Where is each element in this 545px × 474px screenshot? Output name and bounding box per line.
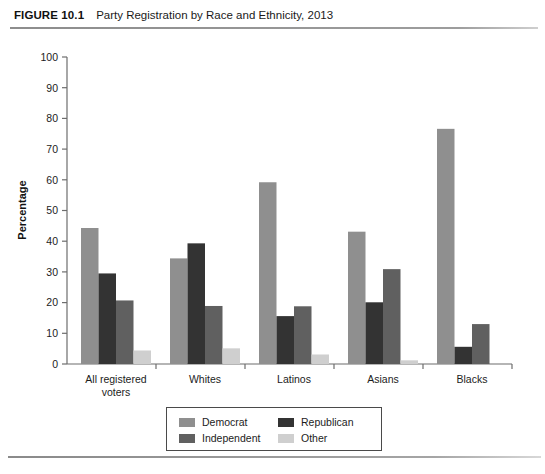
x-axis-ticks: [156, 364, 512, 369]
figure-title: Party Registration by Race and Ethnicity…: [96, 9, 333, 21]
bar-chart: 0102030405060708090100 All registeredvot…: [0, 30, 545, 454]
bar-republican-1: [188, 243, 206, 364]
bar-independent-3: [383, 269, 401, 364]
legend-label-republican: Republican: [301, 416, 354, 428]
legend-item-republican: Republican: [278, 416, 371, 428]
bar-republican-2: [277, 316, 295, 364]
legend-label-other: Other: [301, 432, 327, 444]
bar-independent-2: [294, 306, 312, 364]
x-category-label: Whites: [189, 373, 221, 385]
legend-label-democrat: Democrat: [202, 416, 248, 428]
y-axis-title: Percentage: [16, 180, 28, 239]
legend-swatch-other: [278, 434, 294, 443]
bar-independent-0: [116, 300, 134, 364]
x-category-label: Asians: [367, 373, 399, 385]
bar-republican-3: [366, 302, 384, 364]
x-category-label: Blacks: [457, 373, 488, 385]
figure-header: FIGURE 10.1 Party Registration by Race a…: [0, 0, 545, 30]
x-axis-category-labels: All registeredvotersWhitesLatinosAsiansB…: [85, 373, 487, 398]
bar-democrat-4: [437, 129, 455, 364]
bar-other-0: [134, 350, 152, 364]
bar-republican-0: [99, 273, 117, 364]
legend-item-democrat: Democrat: [179, 416, 272, 428]
x-category-label: Latinos: [277, 373, 311, 385]
y-tick-label: 90: [46, 82, 58, 94]
bar-independent-4: [472, 324, 490, 364]
bar-other-2: [312, 354, 330, 364]
y-tick-label: 50: [46, 204, 58, 216]
y-axis-tick-labels: 0102030405060708090100: [40, 51, 58, 370]
header-divider: [10, 27, 538, 29]
y-tick-label: 20: [46, 296, 58, 308]
legend-swatch-independent: [179, 434, 195, 443]
bar-series-group: [81, 129, 490, 364]
y-tick-label: 30: [46, 266, 58, 278]
legend-item-other: Other: [278, 432, 371, 444]
y-tick-label: 10: [46, 327, 58, 339]
bar-independent-1: [205, 306, 223, 364]
chart-container: 0102030405060708090100 All registeredvot…: [0, 30, 545, 454]
x-category-label: voters: [102, 386, 131, 398]
figure-number: FIGURE 10.1: [14, 9, 84, 21]
y-tick-label: 70: [46, 143, 58, 155]
legend-swatch-republican: [278, 418, 294, 427]
y-tick-label: 40: [46, 235, 58, 247]
y-tick-label: 100: [40, 51, 58, 63]
x-category-label: All registered: [85, 373, 146, 385]
y-tick-label: 0: [52, 358, 58, 370]
bar-republican-4: [455, 347, 473, 364]
bar-democrat-1: [170, 258, 188, 364]
bar-democrat-3: [348, 232, 366, 364]
legend-swatch-democrat: [179, 418, 195, 427]
chart-legend: Democrat Republican Independent Other: [166, 407, 382, 451]
bar-democrat-2: [259, 182, 277, 364]
bar-other-3: [401, 360, 419, 364]
footer-divider: [8, 456, 541, 458]
y-axis-ticks: [62, 57, 67, 364]
y-tick-label: 60: [46, 174, 58, 186]
bar-democrat-0: [81, 228, 99, 364]
legend-label-independent: Independent: [202, 432, 260, 444]
y-tick-label: 80: [46, 112, 58, 124]
bar-other-1: [223, 348, 241, 364]
legend-item-independent: Independent: [179, 432, 272, 444]
